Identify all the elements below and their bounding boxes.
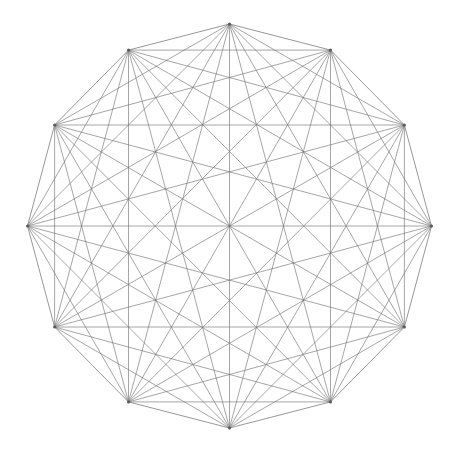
graph-vertex — [329, 400, 332, 403]
graph-vertex — [26, 225, 29, 228]
graph-vertex — [430, 225, 433, 228]
graph-vertex — [228, 427, 231, 430]
graph-vertex — [127, 49, 130, 52]
complete-graph-canvas — [0, 0, 454, 452]
graph-vertex — [53, 124, 56, 127]
graph-vertex — [403, 326, 406, 329]
graph-vertex — [228, 23, 231, 26]
graph-vertex — [403, 124, 406, 127]
graph-vertex — [329, 49, 332, 52]
graph-vertex — [127, 400, 130, 403]
figure-root — [0, 0, 454, 452]
graph-vertex — [53, 326, 56, 329]
